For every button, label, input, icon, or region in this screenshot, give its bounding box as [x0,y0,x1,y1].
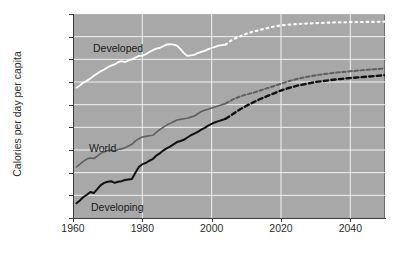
y-tick-mark [69,173,73,174]
y-tick-mark [69,195,73,196]
x-tick-label: 1960 [43,222,103,234]
series-label-world: World [89,142,116,154]
y-axis-label: Calories per day per capita [11,34,23,194]
series-label-developing: Developing [91,201,144,213]
series-label-developed: Developed [93,42,143,54]
y-tick-mark [69,59,73,60]
x-tick-mark [142,218,143,222]
y-tick-mark [69,14,73,15]
x-tick-mark [73,218,74,222]
y-axis-line [73,14,74,219]
y-tick-mark [69,127,73,128]
x-tick-label: 2040 [320,222,380,234]
y-tick-mark [69,105,73,106]
x-tick-mark [212,218,213,222]
x-axis-line [73,218,386,219]
x-tick-mark [350,218,351,222]
plot-area: Developed World Developing [73,14,385,218]
y-tick-mark [69,82,73,83]
x-tick-label: 2000 [182,222,242,234]
y-tick-mark [69,37,73,38]
x-tick-label: 1980 [112,222,172,234]
y-tick-mark [69,150,73,151]
x-tick-mark [281,218,282,222]
x-tick-label: 2020 [251,222,311,234]
calories-per-capita-chart: Calories per day per capita Developed Wo… [0,0,403,263]
